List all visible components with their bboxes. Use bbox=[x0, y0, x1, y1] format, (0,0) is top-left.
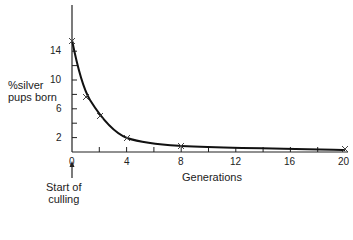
y-ticks bbox=[72, 51, 77, 137]
x-tick-12: 12 bbox=[230, 156, 241, 167]
x-tick-20: 20 bbox=[338, 156, 349, 167]
y-tick-2: 2 bbox=[56, 132, 62, 143]
y-axis-label: %silver pups born bbox=[8, 79, 57, 103]
x-tick-8: 8 bbox=[178, 156, 184, 167]
x-tick-0: 0 bbox=[69, 156, 75, 167]
x-tick-16: 16 bbox=[284, 156, 295, 167]
x-axis-label: Generations bbox=[182, 171, 242, 183]
y-tick-14: 14 bbox=[50, 45, 61, 56]
culling-annotation: Start of culling bbox=[46, 181, 81, 205]
y-label-line2: pups born bbox=[8, 91, 57, 103]
annot-line2: culling bbox=[46, 193, 81, 205]
y-tick-6: 6 bbox=[56, 103, 62, 114]
x-tick-4: 4 bbox=[124, 156, 130, 167]
annot-line1: Start of bbox=[46, 181, 81, 193]
data-markers bbox=[69, 38, 348, 152]
decay-curve bbox=[72, 40, 345, 150]
y-label-line1: %silver bbox=[8, 79, 57, 91]
